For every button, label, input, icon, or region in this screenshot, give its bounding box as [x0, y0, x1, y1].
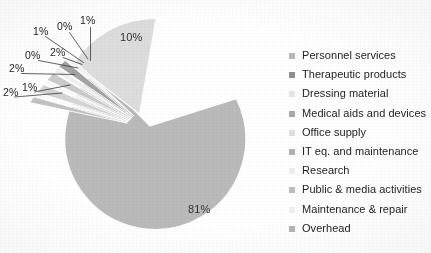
legend-item-personnel-services: Personnel services [289, 46, 431, 65]
pie-callout-label-public-media: 2% [9, 62, 24, 74]
pie-callout-label-office-supply: 1% [33, 25, 48, 37]
legend-item-label: Dressing material [302, 88, 388, 99]
pie-callout-label-maintenance-repair: 1% [22, 81, 37, 93]
legend-item-office-supply: Office supply [289, 123, 431, 142]
chart-legend: Personnel services Therapeutic products … [289, 46, 431, 238]
legend-item-medical-aids-and-devices: Medical aids and devices [289, 104, 431, 123]
pie-callout-label-research: 0% [25, 49, 40, 61]
legend-swatch-icon [289, 187, 295, 193]
chart-canvas: 81% 10% 1% 0% 1% 2% 0% 2% 1% 2% Personne… [0, 0, 431, 253]
legend-swatch-icon [289, 207, 295, 213]
legend-item-research: Research [289, 161, 431, 180]
legend-swatch-icon [289, 72, 295, 78]
legend-swatch-icon [289, 226, 295, 232]
legend-swatch-icon [289, 168, 295, 174]
legend-item-it-eq-and-maintenance: IT eq. and maintenance [289, 142, 431, 161]
legend-item-overhead: Overhead [289, 219, 431, 238]
pie-data-label-81: 81% [188, 203, 210, 215]
legend-swatch-icon [289, 149, 295, 155]
legend-item-maintenance-and-repair: Maintenance & repair [289, 200, 431, 219]
legend-item-label: Personnel services [302, 50, 396, 61]
pie-callout-label-dressing-material: 1% [80, 14, 95, 26]
legend-item-label: Public & media activities [302, 184, 422, 195]
legend-item-label: Medical aids and devices [302, 108, 426, 119]
legend-swatch-icon [289, 111, 295, 117]
legend-item-dressing-material: Dressing material [289, 84, 431, 103]
legend-item-label: IT eq. and maintenance [302, 146, 418, 157]
pie-callout-label-overhead: 2% [3, 86, 18, 98]
pie-svg [0, 0, 285, 253]
legend-item-label: Office supply [302, 127, 366, 138]
pie-callout-label-medical-aids: 0% [57, 20, 72, 32]
pie-chart: 81% 10% 1% 0% 1% 2% 0% 2% 1% 2% [0, 0, 285, 253]
legend-item-public-and-media-activities: Public & media activities [289, 180, 431, 199]
legend-item-therapeutic-products: Therapeutic products [289, 65, 431, 84]
legend-swatch-icon [289, 91, 295, 97]
legend-swatch-icon [289, 130, 295, 136]
pie-data-label-10: 10% [120, 31, 142, 43]
legend-item-label: Research [302, 165, 349, 176]
pie-slice-personnel-services [65, 71, 246, 229]
pie-callout-label-it-eq: 2% [50, 46, 65, 58]
legend-item-label: Maintenance & repair [302, 204, 408, 215]
legend-swatch-icon [289, 53, 295, 59]
legend-item-label: Overhead [302, 223, 351, 234]
legend-item-label: Therapeutic products [302, 69, 406, 80]
